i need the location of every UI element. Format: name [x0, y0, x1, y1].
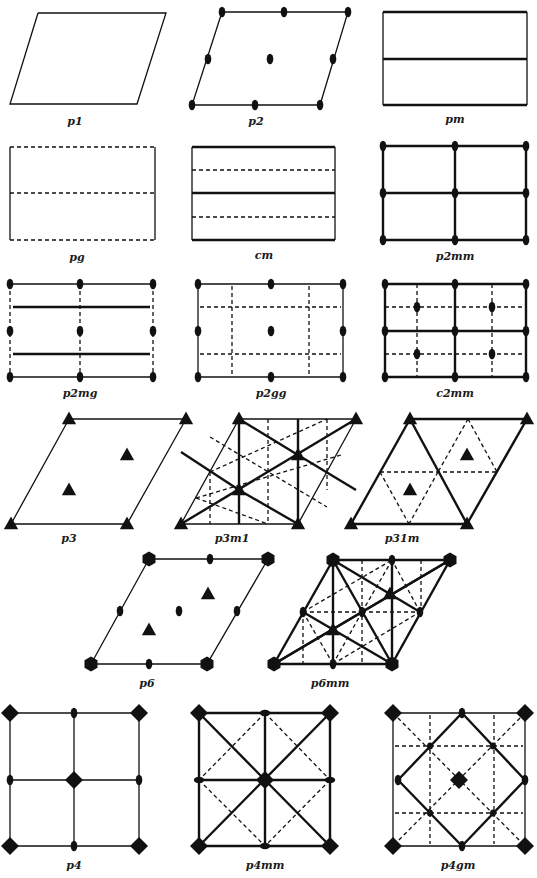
panel-c2mm	[382, 279, 530, 382]
twofold-rotation-icon	[523, 279, 530, 289]
twofold-rotation-icon	[317, 100, 324, 110]
twofold-rotation-icon	[523, 235, 530, 245]
twofold-rotation-icon	[340, 326, 347, 336]
twofold-rotation-icon	[359, 607, 366, 617]
twofold-rotation-icon	[490, 809, 496, 816]
twofold-rotation-icon	[71, 708, 78, 718]
twofold-rotation-icon	[146, 659, 153, 669]
twofold-rotation-icon	[268, 279, 275, 289]
twofold-rotation-icon	[523, 372, 530, 382]
sixfold-rotation-icon	[143, 552, 156, 567]
twofold-rotation-icon	[382, 372, 389, 382]
twofold-rotation-icon	[414, 349, 421, 359]
twofold-rotation-icon	[234, 606, 241, 616]
panel-label-p1: p1	[67, 115, 82, 128]
glide-line	[468, 419, 497, 472]
sixfold-rotation-icon	[262, 552, 275, 567]
panel-label-cm: cm	[255, 249, 273, 262]
cell-edge-line	[11, 419, 186, 524]
twofold-rotation-icon	[252, 100, 259, 110]
threefold-rotation-icon	[142, 623, 156, 636]
twofold-rotation-icon	[523, 141, 530, 151]
twofold-rotation-icon	[195, 372, 202, 382]
panel-p4gm	[384, 704, 534, 855]
panel-label-p2mm: p2mm	[436, 250, 475, 263]
threefold-rotation-icon	[403, 483, 417, 496]
twofold-rotation-icon	[459, 841, 466, 851]
twofold-rotation-icon	[207, 554, 214, 564]
twofold-rotation-icon	[7, 372, 14, 382]
twofold-rotation-icon	[380, 141, 387, 151]
twofold-rotation-icon	[490, 742, 496, 749]
mirror-line	[181, 452, 239, 490]
panel-label-p2mg: p2mg	[63, 387, 98, 400]
twofold-rotation-icon	[340, 372, 347, 382]
panel-label-pg: pg	[69, 251, 84, 264]
twofold-rotation-icon	[382, 326, 389, 336]
twofold-rotation-icon	[205, 54, 212, 64]
fourfold-rotation-icon	[65, 771, 83, 789]
threefold-rotation-icon	[120, 517, 134, 530]
twofold-rotation-icon	[176, 606, 183, 616]
twofold-rotation-icon	[452, 326, 459, 336]
panel-label-p3m1: p3m1	[215, 532, 250, 545]
panel-label-p4: p4	[66, 859, 81, 872]
threefold-rotation-icon	[460, 448, 474, 461]
threefold-rotation-icon	[62, 412, 76, 425]
panel-p4	[1, 704, 148, 855]
threefold-rotation-icon	[179, 412, 193, 425]
panel-label-p2: p2	[248, 115, 263, 128]
twofold-rotation-icon	[260, 710, 270, 717]
twofold-rotation-icon	[7, 279, 14, 289]
twofold-rotation-icon	[452, 372, 459, 382]
wallpaper-groups-figure: p1p2pmpgcmp2mmp2mgp2ggc2mmp3p3m1p31mp6p6…	[0, 0, 537, 878]
panel-label-p6: p6	[139, 677, 154, 690]
glide-line	[196, 498, 268, 524]
twofold-rotation-icon	[523, 326, 530, 336]
threefold-rotation-icon	[120, 448, 134, 461]
twofold-rotation-icon	[268, 372, 275, 382]
glide-line	[409, 472, 438, 524]
glide-line	[438, 419, 468, 472]
twofold-rotation-icon	[417, 607, 424, 617]
twofold-rotation-icon	[389, 555, 396, 565]
panel-cm	[192, 147, 335, 240]
twofold-rotation-icon	[380, 188, 387, 198]
panel-pm	[383, 12, 527, 105]
fourfold-rotation-icon	[130, 704, 148, 722]
twofold-rotation-icon	[523, 188, 530, 198]
twofold-rotation-icon	[7, 326, 14, 336]
twofold-rotation-icon	[489, 302, 496, 312]
panel-p2mg	[7, 279, 157, 382]
fourfold-rotation-icon	[1, 704, 19, 722]
panel-p4mm	[190, 704, 339, 855]
twofold-rotation-icon	[345, 7, 352, 17]
threefold-rotation-icon	[291, 517, 305, 530]
panel-label-pm: pm	[445, 113, 464, 126]
panel-p2	[189, 7, 352, 110]
twofold-rotation-icon	[459, 708, 466, 718]
twofold-rotation-icon	[452, 141, 459, 151]
panel-p2gg	[195, 279, 347, 382]
threefold-rotation-icon	[232, 412, 246, 425]
twofold-rotation-icon	[427, 742, 433, 749]
panel-p3	[4, 412, 193, 530]
twofold-rotation-icon	[150, 279, 157, 289]
panel-label-p2gg: p2gg	[256, 387, 287, 400]
panel-label-p4gm: p4gm	[441, 859, 476, 872]
twofold-rotation-icon	[7, 775, 14, 785]
panel-label-p6mm: p6mm	[311, 677, 350, 690]
sixfold-rotation-icon	[327, 553, 340, 568]
twofold-rotation-icon	[281, 7, 288, 17]
threefold-rotation-icon	[62, 483, 76, 496]
twofold-rotation-icon	[194, 777, 204, 784]
panel-p3m1	[174, 412, 363, 530]
twofold-rotation-icon	[136, 775, 143, 785]
twofold-rotation-icon	[427, 809, 433, 816]
panel-p6	[85, 552, 275, 672]
twofold-rotation-icon	[219, 7, 226, 17]
sixfold-rotation-icon	[444, 553, 457, 568]
panel-label-p4mm: p4mm	[246, 859, 285, 872]
twofold-rotation-icon	[77, 372, 84, 382]
panel-p31m	[344, 412, 534, 530]
